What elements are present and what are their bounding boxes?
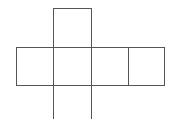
right-face bbox=[91, 47, 129, 86]
far-right-face bbox=[128, 47, 165, 86]
bottom-face bbox=[53, 85, 92, 119]
left-face bbox=[16, 47, 54, 86]
center-face bbox=[53, 47, 92, 86]
top-face bbox=[53, 8, 92, 48]
